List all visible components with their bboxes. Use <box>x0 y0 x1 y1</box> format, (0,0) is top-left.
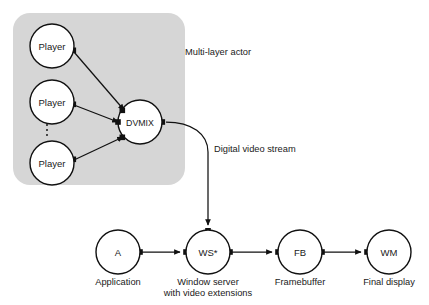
node-player-2[interactable]: Player <box>30 80 74 124</box>
caption-window-server-line1: Window server <box>177 277 238 287</box>
edge-ws-to-fb <box>227 249 281 255</box>
diagram-svg: Player Player Player DVMIX Multi-layer a… <box>0 0 429 305</box>
node-framebuffer-label: FB <box>294 247 306 258</box>
caption-window-server-line2: with video extensions <box>163 288 253 298</box>
edge-fb-to-wm <box>319 249 370 255</box>
dvmix-input-port-middle <box>115 119 121 125</box>
node-player-1-label: Player <box>39 41 66 52</box>
digital-video-stream-label: Digital video stream <box>214 144 296 154</box>
multi-layer-actor-label: Multi-layer actor <box>185 47 251 57</box>
node-application[interactable]: A <box>96 230 140 274</box>
node-player-2-label: Player <box>39 97 66 108</box>
node-window-server-label: WS* <box>199 247 218 258</box>
node-window-manager-label: WM <box>381 247 398 258</box>
caption-application: Application <box>95 277 140 287</box>
caption-framebuffer: Framebuffer <box>275 277 325 287</box>
dvmix-input-port-top <box>120 108 126 114</box>
node-framebuffer[interactable]: FB <box>278 230 322 274</box>
node-player-1[interactable]: Player <box>30 24 74 68</box>
caption-window-manager: Final display <box>363 277 415 287</box>
node-window-manager[interactable]: WM <box>367 230 411 274</box>
node-application-label: A <box>115 247 122 258</box>
node-window-server[interactable]: WS* <box>186 230 230 274</box>
edge-a-to-ws <box>137 249 189 255</box>
diagram-canvas: Player Player Player DVMIX Multi-layer a… <box>0 0 429 305</box>
node-player-3[interactable]: Player <box>30 141 74 185</box>
node-dvmix-label: DVMIX <box>126 118 154 128</box>
node-player-3-label: Player <box>39 158 66 169</box>
dvmix-input-port-bottom <box>120 135 126 141</box>
